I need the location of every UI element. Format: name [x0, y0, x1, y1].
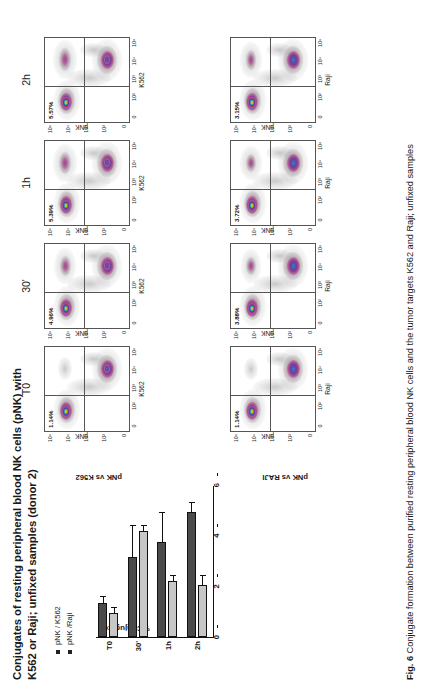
density-cluster [244, 358, 258, 380]
bar-1h-k562 [157, 542, 166, 637]
x-axis-tick: 10⁵ [317, 348, 323, 356]
quadrant-divider-horizontal [270, 38, 271, 122]
caption-text: Conjugate formation between purified res… [405, 144, 415, 653]
x-axis-tick: 10³ [131, 178, 137, 186]
density-cluster [58, 358, 72, 381]
y-axis-tick: 0 [121, 125, 127, 137]
density-cluster [246, 257, 255, 274]
density-cluster [59, 152, 71, 174]
y-axis-tick: 10⁵ [47, 228, 53, 240]
bar-2h-raji [198, 585, 207, 637]
x-axis-tick: 10⁵ [131, 245, 137, 253]
density-cluster [62, 406, 69, 417]
quadrant-divider-horizontal [270, 244, 271, 328]
y-axis-label: pNK [248, 330, 288, 337]
y-axis-tick: 10⁵ [233, 434, 239, 446]
gate-percentage: 4.96% [47, 306, 54, 326]
error-bar [114, 608, 115, 613]
density-cluster [67, 275, 111, 293]
quadrant-divider-horizontal [84, 38, 85, 122]
quadrant-divider-horizontal [270, 141, 271, 225]
y-axis-tick: 10² [101, 125, 107, 137]
x-axis-label: Raji [324, 243, 331, 329]
x-axis-tick: 10³ [131, 75, 137, 83]
x-axis-tick: 10² [317, 299, 323, 307]
y-axis-tick: 0 [307, 125, 313, 137]
plot-box: 3.15% [230, 37, 316, 123]
flow-plot-30-raji: 3.88%0010²10²10³10³10⁴10⁴10⁵10⁵RajipNK [230, 243, 316, 329]
x-axis-tick: 10² [131, 402, 137, 410]
bar-30-raji [139, 531, 148, 637]
y-axis-label: pNK [248, 124, 288, 131]
figure-page: Conjugates of resting peripheral blood N… [0, 0, 443, 694]
error-bar [202, 576, 203, 585]
y-axis-tick: 10² [287, 228, 293, 240]
density-cluster [248, 97, 255, 108]
x-axis-tick: 0 [317, 116, 323, 119]
legend-swatch-raji [68, 650, 72, 654]
x-axis-tick: 10³ [317, 178, 323, 186]
bar-30-k562 [128, 557, 137, 637]
plot-box: 3.72% [230, 140, 316, 226]
y-axis-tick: 10⁵ [233, 125, 239, 137]
column-header-1h: 1h [20, 137, 32, 229]
x-axis-tick: 10⁴ [317, 57, 323, 65]
x-axis-tick: 10⁴ [131, 263, 137, 271]
x-axis-tick: 10² [317, 196, 323, 204]
caption-label: Fig. 6 [405, 656, 415, 680]
x-axis-label: Raji [324, 346, 331, 432]
density-cluster [60, 256, 71, 276]
bar-chart-x-tick-1h: 1h [163, 641, 172, 663]
bar-chart-x-tick-30: 30' [134, 641, 143, 663]
x-axis-tick: 0 [317, 219, 323, 222]
x-axis-tick: 10² [317, 93, 323, 101]
error-bar [103, 597, 104, 603]
y-axis-tick: 10² [101, 228, 107, 240]
gate-percentage: 1.14% [47, 409, 54, 429]
plot-box: 4.96% [44, 243, 130, 329]
quadrant-divider-horizontal [84, 141, 85, 225]
bar-1h-raji [168, 581, 177, 637]
plot-box: 1.14% [230, 346, 316, 432]
x-axis-tick: 10³ [317, 75, 323, 83]
y-axis-label: pNK [62, 227, 102, 234]
flow-plot-T0-k562: 1.14%0010²10²10³10³10⁴10⁴10⁵10⁵K562pNK [44, 346, 130, 432]
figure-caption: Fig. 6 Conjugate formation between purif… [404, 20, 416, 680]
y-axis-tick: 10⁵ [233, 331, 239, 343]
flow-cytometry-panel-grid: pNK vs K562T01.14%0010²10²10³10³10⁴10⁴10… [18, 30, 418, 448]
quadrant-divider-vertical [231, 189, 315, 190]
quadrant-divider-horizontal [84, 244, 85, 328]
quadrant-divider-vertical [45, 86, 129, 87]
error-bar [173, 576, 174, 581]
density-cluster [248, 303, 255, 314]
x-axis-tick: 10³ [131, 281, 137, 289]
density-cluster [248, 406, 255, 417]
density-cluster [253, 275, 297, 293]
quadrant-divider-vertical [45, 189, 129, 190]
density-cluster [253, 69, 297, 87]
gate-percentage: 3.72% [233, 203, 240, 223]
x-axis-tick: 10⁴ [317, 160, 323, 168]
flow-plot-2h-raji: 3.15%0010²10²10³10³10⁴10⁴10⁵10⁵RajipNK [230, 37, 316, 123]
x-axis-tick: 10⁵ [317, 39, 323, 47]
flow-plot-1h-raji: 3.72%0010²10²10³10³10⁴10⁴10⁵10⁵RajipNK [230, 140, 316, 226]
x-axis-tick: 10⁵ [317, 142, 323, 150]
quadrant-divider-vertical [231, 292, 315, 293]
error-bar [143, 526, 144, 531]
quadrant-divider-horizontal [84, 347, 85, 431]
y-axis-tick: 10² [287, 125, 293, 137]
x-axis-tick: 0 [131, 425, 137, 428]
bar-chart-y-tick: 0 [212, 629, 221, 645]
y-axis-tick: 10² [287, 331, 293, 343]
bar-T0-raji [109, 613, 118, 637]
plot-box: 3.88% [230, 243, 316, 329]
x-axis-tick: 0 [131, 219, 137, 222]
x-axis-tick: 10⁴ [317, 263, 323, 271]
gate-percentage: 3.15% [233, 100, 240, 120]
error-bar [132, 526, 133, 558]
y-axis-tick: 0 [121, 434, 127, 446]
x-axis-tick: 10² [131, 196, 137, 204]
x-axis-tick: 10⁴ [317, 366, 323, 374]
gate-percentage: 3.88% [233, 306, 240, 326]
plot-box: 5.57% [44, 37, 130, 123]
